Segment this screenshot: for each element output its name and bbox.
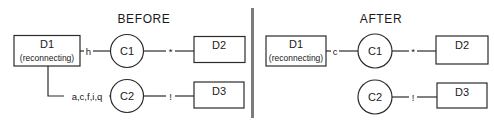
after-node-d3-label: D3 (455, 86, 469, 98)
before-node-d1-sublabel: (reconnecting) (20, 53, 75, 63)
before-edge-label-d1-c1: h (86, 46, 91, 57)
after-node-d1-sublabel: (reconnecting) (269, 53, 324, 63)
before-edge-label-c1-d2: * (169, 46, 173, 57)
after-edge-label-c2-d3: ! (412, 92, 415, 103)
diagram-canvas: BEFORE D1 (reconnecting) C1 C2 D2 (0, 0, 494, 126)
before-panel: BEFORE D1 (reconnecting) C1 C2 D2 (14, 12, 245, 113)
before-node-c1-label: C1 (120, 45, 134, 57)
after-edge-label-d1-c1: c (333, 46, 338, 57)
after-edge-label-c1-d2: * (411, 46, 415, 57)
after-panel: AFTER D1 (reconnecting) C1 C2 D2 D3 (266, 12, 488, 114)
before-edge-label-c2-d3: ! (169, 91, 172, 102)
after-node-d1-label: D1 (289, 38, 303, 50)
after-panel-title: AFTER (360, 12, 402, 26)
after-node-c2-label: C2 (368, 91, 382, 103)
before-edge-label-d1-c2: a,c,f,i,q (72, 91, 103, 102)
after-node-c1-label: C1 (368, 45, 382, 57)
before-node-d1-label: D1 (40, 38, 54, 50)
before-edge-d1-c2-elbow (48, 66, 64, 96)
before-node-c2-label: C2 (120, 90, 134, 102)
before-panel-title: BEFORE (118, 12, 171, 26)
before-node-d3-label: D3 (212, 85, 226, 97)
before-node-d2-label: D2 (212, 39, 226, 51)
after-node-d2-label: D2 (455, 39, 469, 51)
